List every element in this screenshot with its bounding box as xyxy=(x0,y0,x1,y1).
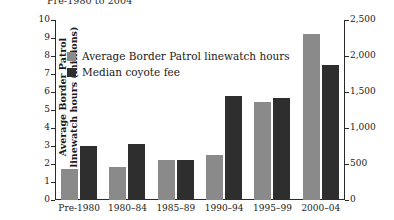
left-axis-tick-label: 5 xyxy=(26,105,50,114)
legend-swatch-icon-series0 xyxy=(67,52,76,61)
legend-label-series1: Median coyote fee xyxy=(82,66,180,78)
left-axis-tick xyxy=(51,92,55,93)
bar-coyote-fee xyxy=(273,98,290,200)
category-label: Pre-1980 xyxy=(55,203,103,219)
legend-item-linewatch-hours: Average Border Patrol linewatch hours xyxy=(67,50,290,62)
left-axis-tick-label: 3 xyxy=(26,141,50,150)
left-axis-tick-label: 9 xyxy=(26,33,50,42)
left-axis-title: Average Border Patrol linewatch hours (m… xyxy=(57,22,79,172)
legend-swatch-icon-series1 xyxy=(67,68,76,77)
right-axis-tick-label: 1,500 xyxy=(350,87,376,96)
right-axis-tick xyxy=(345,164,349,165)
category-label: 1985–89 xyxy=(152,203,200,219)
bar-group xyxy=(200,20,248,200)
chart-container: Pre-1980 to 2004 012345678910 05001,0001… xyxy=(0,0,394,220)
right-axis-tick xyxy=(345,200,349,201)
left-axis-tick xyxy=(51,164,55,165)
right-axis-tick-label: 1,000 xyxy=(350,123,376,132)
bar-linewatch-hours xyxy=(254,102,271,200)
category-label: 2000–04 xyxy=(297,203,345,219)
right-axis-tick xyxy=(345,128,349,129)
left-axis-tick xyxy=(51,110,55,111)
right-axis-tick-labels: 05001,0001,5002,0002,500 xyxy=(350,20,390,200)
right-axis-tick xyxy=(345,92,349,93)
left-axis-tick-label: 8 xyxy=(26,51,50,60)
left-axis-tick-labels: 012345678910 xyxy=(26,20,50,200)
bar-coyote-fee xyxy=(80,146,97,200)
bar-linewatch-hours xyxy=(303,34,320,200)
left-axis-tick-label: 1 xyxy=(26,177,50,186)
left-axis-tick xyxy=(51,182,55,183)
bar-linewatch-hours xyxy=(158,160,175,200)
left-axis-tick-label: 2 xyxy=(26,159,50,168)
bar-group xyxy=(152,20,200,200)
left-axis-tick xyxy=(51,38,55,39)
left-axis-tick xyxy=(51,74,55,75)
right-axis-tick xyxy=(345,56,349,57)
legend-item-coyote-fee: Median coyote fee xyxy=(67,66,290,78)
bar-coyote-fee xyxy=(128,144,145,200)
bar-groups xyxy=(55,20,345,200)
right-axis-tick-label: 2,500 xyxy=(350,15,376,24)
right-axis-tick-label: 500 xyxy=(350,159,367,168)
bar-linewatch-hours xyxy=(61,169,78,201)
right-axis-tick-label: 0 xyxy=(350,195,356,204)
left-axis-tick xyxy=(51,128,55,129)
left-axis-tick-label: 10 xyxy=(26,15,50,24)
left-axis-tick xyxy=(51,200,55,201)
bar-linewatch-hours xyxy=(109,167,126,200)
bar-coyote-fee xyxy=(225,96,242,200)
chart-legend: Average Border Patrol linewatch hours Me… xyxy=(67,50,290,82)
right-axis-tick xyxy=(345,20,349,21)
legend-label-series0: Average Border Patrol linewatch hours xyxy=(82,50,290,62)
category-label: 1995–99 xyxy=(248,203,296,219)
bar-group xyxy=(103,20,151,200)
left-axis-tick-label: 6 xyxy=(26,87,50,96)
bar-linewatch-hours xyxy=(206,155,223,200)
category-labels: Pre-19801980–841985–891990–941995–992000… xyxy=(55,203,345,219)
chart-title: Pre-1980 to 2004 xyxy=(47,0,132,6)
left-axis-tick xyxy=(51,56,55,57)
bar-coyote-fee xyxy=(322,65,339,200)
right-axis-tick-label: 2,000 xyxy=(350,51,376,60)
plot-area: Average Border Patrol linewatch hours (m… xyxy=(55,20,345,200)
bar-group xyxy=(297,20,345,200)
bar-coyote-fee xyxy=(177,160,194,200)
left-axis-title-line2: linewatch hours (millions) xyxy=(68,27,79,168)
category-label: 1990–94 xyxy=(200,203,248,219)
left-axis-tick-label: 7 xyxy=(26,69,50,78)
left-axis-tick-label: 0 xyxy=(26,195,50,204)
left-axis-tick xyxy=(51,146,55,147)
left-axis-tick-label: 4 xyxy=(26,123,50,132)
left-axis-tick xyxy=(51,20,55,21)
bar-group xyxy=(248,20,296,200)
category-label: 1980–84 xyxy=(103,203,151,219)
